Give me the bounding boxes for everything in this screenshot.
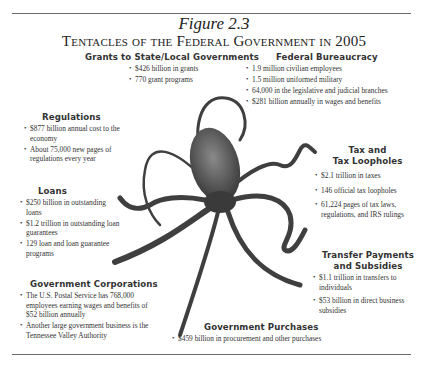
- transfers-item: $1.1 trillion in transfers to individual…: [313, 273, 423, 292]
- purchases-item: $459 billion in procurement and other pu…: [172, 334, 372, 344]
- bureaucracy-heading: Federal Bureaucracy: [276, 52, 426, 63]
- tax-section: Tax and Tax Loopholes $2.1 trillion in t…: [315, 145, 420, 221]
- loans-item: $250 billion in outstanding loans: [20, 198, 120, 217]
- bureaucracy-item: 1.5 million uniformed military: [246, 75, 426, 85]
- loans-section: Loans $250 billion in outstanding loans …: [20, 186, 120, 260]
- bureaucracy-item: $281 billion annually in wages and benef…: [246, 97, 426, 107]
- grants-heading: Grants to State/Local Governments: [72, 52, 272, 63]
- corporations-item: Another large government business is the…: [20, 321, 160, 340]
- bureaucracy-item: 1.9 million civilian employees: [246, 64, 426, 74]
- tax-item: $2.1 trillion in taxes: [315, 171, 420, 181]
- bureaucracy-item: 64,000 in the legislative and judicial b…: [246, 86, 426, 96]
- tax-item: 146 official tax loopholes: [315, 186, 420, 196]
- regulations-section: Regulations $877 billion annual cost to …: [24, 112, 134, 165]
- transfers-section: Transfer Payments and Subsidies $1.1 tri…: [313, 250, 423, 317]
- loans-item: $1.2 trillion in outstanding loan guaran…: [20, 219, 120, 238]
- loans-heading: Loans: [38, 186, 120, 197]
- regulations-heading: Regulations: [42, 112, 134, 123]
- transfers-heading-line2: and Subsidies: [313, 261, 423, 272]
- regulations-item: About 75,000 new pages of regulations ev…: [24, 145, 134, 164]
- bureaucracy-section: Federal Bureaucracy 1.9 million civilian…: [246, 52, 426, 108]
- purchases-heading: Government Purchases: [204, 322, 372, 333]
- grants-section: Grants to State/Local Governments $426 b…: [72, 52, 272, 86]
- tax-item: 61,224 pages of tax laws, regulations, a…: [315, 200, 420, 219]
- bottom-rule: [12, 354, 411, 355]
- purchases-section: Government Purchases $459 billion in pro…: [172, 322, 372, 345]
- transfers-heading-line1: Transfer Payments: [313, 250, 423, 261]
- corporations-section: Government Corporations The U.S. Postal …: [20, 279, 160, 342]
- transfers-item: $53 billion in direct business subsidies: [313, 296, 423, 315]
- corporations-heading: Government Corporations: [30, 279, 160, 290]
- corporations-item: The U.S. Postal Service has 768,000 empl…: [20, 291, 160, 320]
- tax-heading-line1: Tax and: [315, 145, 420, 156]
- regulations-item: $877 billion annual cost to the economy: [24, 124, 134, 143]
- loans-item: 129 loan and loan guarantee programs: [20, 239, 120, 258]
- tax-heading-line2: Tax Loopholes: [315, 156, 420, 167]
